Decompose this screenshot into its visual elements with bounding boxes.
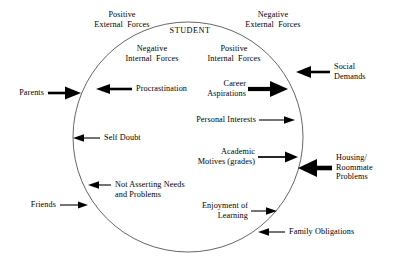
label-parents: Parents [19, 88, 44, 98]
heading-positive-internal-forces: Positive Internal Forces [208, 44, 261, 63]
label-enjoyment-of-learning: Enjoyment of Learning [202, 201, 248, 220]
label-housing-roommate-problems: Housing/ Roommate Problems [336, 153, 373, 182]
arrow-parents [48, 87, 81, 100]
force-field-diagram: Positive External Forces Negative Extern… [0, 0, 393, 274]
label-academic-motives: Academic Motives (grades) [198, 147, 255, 166]
arrow-procrastination [96, 84, 132, 94]
arrow-personal-interests [259, 116, 295, 124]
arrow-enjoyment-of-learning [251, 207, 277, 215]
arrow-career-aspirations [248, 81, 288, 97]
arrow-not-asserting-needs [88, 181, 111, 189]
heading-negative-external-forces: Negative External Forces [245, 10, 300, 29]
label-procrastination: Procrastination [136, 84, 187, 94]
label-social-demands: Social Demands [334, 62, 366, 81]
label-not-asserting-needs: Not Asserting Needs and Problems [115, 180, 185, 199]
arrow-academic-motives [258, 152, 298, 163]
arrow-self-doubt [73, 134, 100, 142]
arrow-housing-roommate-problems [298, 159, 332, 177]
label-career-aspirations: Career Aspirations [207, 79, 246, 98]
label-family-obligations: Family Obligations [289, 227, 354, 237]
arrow-social-demands [296, 66, 330, 78]
label-personal-interests: Personal Interests [196, 115, 256, 125]
heading-negative-internal-forces: Negative Internal Forces [126, 44, 179, 63]
arrow-friends [60, 201, 88, 208]
heading-positive-external-forces: Positive External Forces [94, 10, 149, 29]
label-friends: Friends [31, 200, 56, 210]
page-title: STUDENT [170, 26, 211, 36]
label-self-doubt: Self Doubt [104, 133, 141, 143]
arrow-family-obligations [258, 228, 285, 236]
